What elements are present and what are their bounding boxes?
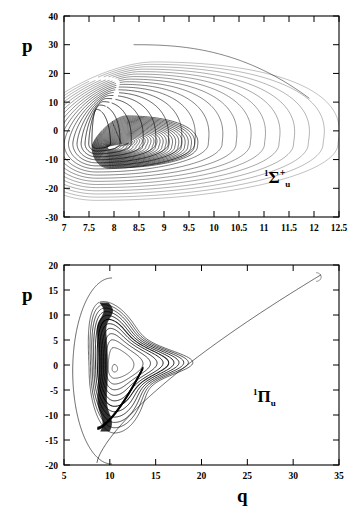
tick-label: 10 [209,223,219,233]
bottom-panel-y-tick-labels: 20 15 10 5 0 -5 -10 -15 -20 [45,261,58,471]
tick-label: 0 [53,126,58,136]
top-panel-x-tick-labels: 7 7.5 8 8.5 9 9.5 10 10.5 11 11.5 12 12.… [62,223,348,233]
tick-label: 10 [49,98,59,108]
tick-label: 8.5 [133,223,145,233]
phase-portrait-figure: p 1Σ+u [0,0,355,512]
tick-label: 30 [288,471,298,481]
tick-label: 40 [49,12,59,22]
tick-label: 10 [105,471,115,481]
tick-label: 12 [309,223,319,233]
bottom-panel-x-tick-labels: 5 10 15 20 25 30 35 [62,471,344,481]
tick-label: -20 [45,461,58,471]
tick-label: 5 [53,336,58,346]
tick-label: 20 [197,471,207,481]
tick-label: -5 [50,386,58,396]
tick-label: 7 [62,223,67,233]
tick-label: 15 [49,286,59,296]
tick-label: 10 [49,311,59,321]
top-panel-trajectory [17,45,340,201]
tick-label: 12.5 [331,223,348,233]
tick-label: 11 [260,223,269,233]
tick-label: 30 [49,40,59,50]
tick-label: 25 [243,471,253,481]
tick-label: 7.5 [83,223,95,233]
tick-label: -30 [45,213,58,223]
top-panel-y-tick-labels: 40 30 20 10 0 -10 -20 -30 [45,12,58,223]
tick-label: 11.5 [281,223,297,233]
top-panel-plot: 40 30 20 10 0 -10 -20 -30 7 7.5 8 8.5 9 … [0,0,355,250]
tick-label: 20 [49,69,59,79]
bottom-panel-plot: 20 15 10 5 0 -5 -10 -15 -20 5 10 15 20 2… [0,250,355,512]
tick-label: 15 [151,471,161,481]
tick-label: 10.5 [231,223,248,233]
tick-label: 0 [53,361,58,371]
tick-label: -20 [45,184,58,194]
bottom-panel-trajectory [73,273,321,464]
tick-label: -10 [45,155,58,165]
tick-label: 35 [334,471,344,481]
tick-label: -10 [45,411,58,421]
tick-label: 5 [62,471,67,481]
tick-label: 9 [162,223,167,233]
tick-label: -15 [45,436,58,446]
tick-label: 20 [49,261,59,271]
tick-label: 9.5 [183,223,195,233]
tick-label: 8 [112,223,117,233]
